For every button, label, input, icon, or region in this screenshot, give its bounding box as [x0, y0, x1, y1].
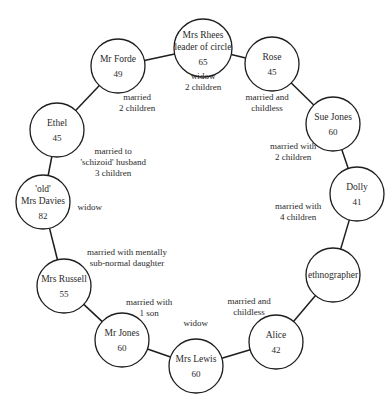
annotation-line: married with: [275, 201, 321, 212]
annotation-line: 4 children: [275, 212, 321, 223]
annotation-line: married and: [246, 92, 289, 103]
node-age: 82: [39, 210, 48, 222]
edge-alice-mrs-lewis: [222, 350, 250, 358]
annotation-line: married with: [270, 141, 316, 152]
annotation-line: 3 children: [81, 168, 146, 179]
node-rose: Rose45: [245, 37, 299, 91]
annotation-line: childless: [246, 103, 289, 114]
annotation-line: sub-normal daughter: [87, 258, 167, 269]
node-name: ethnographer: [308, 269, 358, 281]
node-age: 65: [199, 56, 208, 68]
annotation-sue-jones: married with2 children: [270, 141, 316, 163]
annotation-line: widow: [78, 202, 103, 213]
annotation-line: married with: [126, 297, 172, 308]
annotation-line: married to: [81, 146, 146, 157]
annotation-line: childless: [228, 307, 271, 318]
annotation-line: widow: [185, 71, 221, 82]
annotation-mr-jones: married with1 son: [126, 297, 172, 319]
node-name: Mrs Russell: [41, 273, 87, 285]
node-name: Mrs Lewis: [176, 353, 217, 365]
node-ethnographer: ethnographer: [306, 248, 360, 302]
annotation-mr-forde: married2 children: [119, 92, 155, 114]
node-name: Mrs Rhees: [183, 29, 224, 41]
edge-mr-forde-mrs-rhees: [144, 54, 174, 60]
annotation-rose: married andchildless: [246, 92, 289, 114]
node-age: 45: [53, 132, 62, 144]
node-name: 'old': [35, 183, 51, 195]
node-ethel: Ethel45: [30, 103, 84, 157]
node-mr-forde: Mr Forde49: [91, 39, 145, 93]
node-age: 49: [114, 68, 123, 80]
annotation-mrs-rhees: widow2 children: [185, 71, 221, 93]
node-name: leader of circle: [175, 41, 232, 53]
node-mrs-lewis: Mrs Lewis60: [169, 339, 223, 393]
edge-mrs-rhees-rose: [231, 55, 245, 58]
node-name: Ethel: [47, 117, 67, 129]
annotation-line: 2 children: [270, 152, 316, 163]
edge-mrs-russell-old-mrs-davies: [50, 228, 58, 260]
annotation-mrs-russell: married with mentallysub-normal daughter: [87, 247, 167, 269]
annotation-line: married and: [228, 296, 271, 307]
edge-dolly-ethnographer: [341, 220, 350, 249]
annotation-ethel: married to'schizoid' husband3 children: [81, 146, 146, 179]
node-mrs-rhees: Mrs Rheesleader of circle65: [174, 19, 232, 77]
annotation-line: 1 son: [126, 308, 172, 319]
edge-sue-jones-dolly: [342, 150, 348, 169]
node-name: Mr Jones: [104, 327, 139, 339]
node-age: 55: [60, 288, 69, 300]
node-mrs-russell: Mrs Russell55: [37, 259, 91, 313]
node-name: Dolly: [346, 181, 368, 193]
annotation-alice: married andchildless: [228, 296, 271, 318]
edge-old-mrs-davies-ethel: [48, 157, 52, 176]
node-name: Mrs Davies: [21, 195, 65, 207]
node-dolly: Dolly41: [330, 167, 384, 221]
edge-mrs-lewis-mr-jones: [147, 349, 170, 357]
annotation-line: 'schizoid' husband: [81, 157, 146, 168]
node-name: Alice: [266, 329, 287, 341]
node-age: 60: [329, 126, 338, 138]
annotation-line: widow: [184, 318, 209, 329]
node-age: 60: [192, 368, 201, 380]
annotation-mrs-lewis: widow: [184, 318, 209, 329]
node-mr-jones: Mr Jones60: [95, 313, 149, 367]
node-age: 60: [118, 342, 127, 354]
node-name: Sue Jones: [314, 111, 352, 123]
node-alice: Alice42: [249, 315, 303, 369]
node-age: 41: [353, 196, 362, 208]
node-old-mrs-davies: 'old'Mrs Davies82: [16, 175, 70, 229]
node-age: 42: [272, 344, 281, 356]
annotation-line: married with mentally: [87, 247, 167, 258]
node-name: Mr Forde: [100, 53, 136, 65]
annotation-line: married: [119, 92, 155, 103]
node-name: Rose: [263, 51, 282, 63]
annotation-old-mrs-davies: widow: [78, 202, 103, 213]
annotation-dolly: married with4 children: [275, 201, 321, 223]
node-age: 45: [268, 66, 277, 78]
annotation-line: 2 children: [185, 82, 221, 93]
annotation-line: 2 children: [119, 103, 155, 114]
